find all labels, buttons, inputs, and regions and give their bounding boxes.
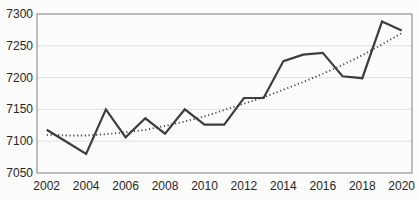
x-tick-label: 2016 [309,179,336,193]
x-tick-label: 2012 [231,179,258,193]
y-tick-label: 7050 [6,166,33,180]
line-chart-figure: 7050710071507200725073002002200420062008… [0,0,419,201]
y-tick-label: 7100 [6,134,33,148]
y-tick-label: 7200 [6,71,33,85]
y-tick-label: 7300 [6,7,33,21]
x-tick-label: 2008 [152,179,179,193]
x-tick-label: 2004 [73,179,100,193]
y-tick-label: 7250 [6,39,33,53]
x-tick-label: 2002 [33,179,60,193]
x-tick-label: 2010 [191,179,218,193]
x-tick-label: 2006 [112,179,139,193]
chart-plot-area: 7050710071507200725073002002200420062008… [0,0,419,201]
plot-frame [37,14,412,173]
y-tick-label: 7150 [6,102,33,116]
x-tick-label: 2014 [270,179,297,193]
x-tick-label: 2020 [388,179,415,193]
x-tick-label: 2018 [349,179,376,193]
